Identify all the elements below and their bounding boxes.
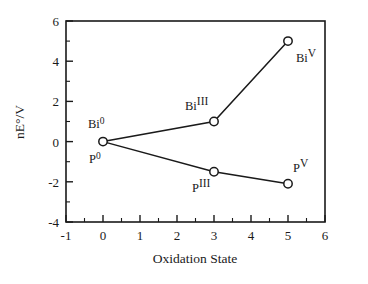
data-point-p-v: [284, 180, 292, 188]
data-point-p-iii: [210, 168, 218, 176]
x-tick-label: 0: [100, 228, 107, 243]
y-axis-title: nE°/V: [12, 105, 27, 139]
chart-canvas: -1 0 1 2 3 4 5 6 6 4 2 0 -2 -4 Oxidation…: [0, 0, 368, 284]
p-0-label-base: P: [89, 152, 96, 166]
bi-v-label-superscript: V: [308, 47, 317, 59]
bi-0-label-base: Bi: [88, 117, 100, 131]
data-point-bi-v: [284, 37, 292, 45]
x-tick-label: 5: [285, 228, 292, 243]
x-tick-label: 4: [248, 228, 255, 243]
y-tick-label: 0: [53, 135, 60, 150]
x-axis-title: Oxidation State: [153, 251, 237, 266]
x-tick-label: 6: [322, 228, 329, 243]
data-point-origin: [99, 137, 107, 145]
y-tick-label: -4: [48, 215, 59, 230]
bi-v-label-base: Bi: [296, 51, 308, 65]
x-tick-label: -1: [61, 228, 72, 243]
y-tick-label: -2: [48, 175, 59, 190]
y-tick-label: 4: [53, 54, 60, 69]
x-tick-label: 2: [174, 228, 181, 243]
y-tick-labels: 6 4 2 0 -2 -4: [48, 14, 59, 230]
bi-0-label-superscript: 0: [100, 116, 105, 126]
p-0-label-superscript: 0: [96, 151, 101, 161]
data-point-bi-iii: [210, 117, 218, 125]
p-iii-label-base: P: [192, 181, 199, 195]
p-v-label-superscript: V: [300, 157, 309, 169]
bi-iii-label-base: Bi: [185, 99, 197, 113]
x-tick-label: 1: [137, 228, 144, 243]
y-tick-label: 2: [53, 94, 60, 109]
p-v-label-base: P: [293, 161, 300, 175]
x-tick-labels: -1 0 1 2 3 4 5 6: [61, 228, 329, 243]
p-iii-label-superscript: III: [199, 177, 211, 189]
x-tick-label: 3: [211, 228, 218, 243]
frost-diagram-figure: -1 0 1 2 3 4 5 6 6 4 2 0 -2 -4 Oxidation…: [0, 0, 368, 284]
y-tick-label: 6: [53, 14, 60, 29]
bi-iii-label-superscript: III: [197, 95, 209, 107]
